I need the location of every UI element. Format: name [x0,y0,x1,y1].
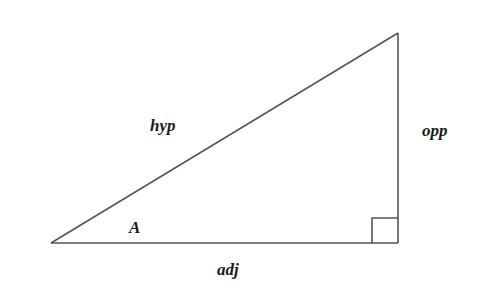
triangle-figure [0,0,480,295]
opposite-label: opp [422,122,448,139]
hypotenuse-side [51,33,398,243]
angle-label-a: A [129,219,140,236]
right-triangle-diagram: A hyp opp adj [0,0,480,295]
adjacent-label: adj [217,261,239,278]
right-angle-marker [372,218,398,243]
hypotenuse-label: hyp [150,117,176,134]
